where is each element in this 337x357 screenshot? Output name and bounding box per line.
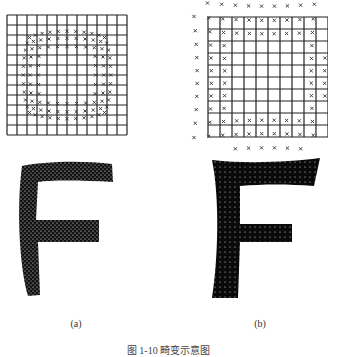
letter-f-a (0, 150, 168, 300)
panel-label-b: (b) (240, 318, 280, 329)
grid-a (6, 14, 128, 136)
grid-b (188, 0, 328, 152)
panel-label-a: (a) (56, 318, 96, 329)
letter-f-b (168, 150, 337, 300)
figure-caption: 图 1-10 畸变示意图 (0, 342, 337, 357)
